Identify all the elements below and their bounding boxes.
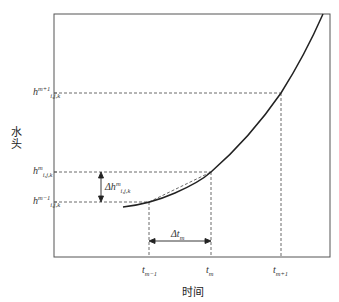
x-tick-t-m: tm	[206, 265, 213, 275]
x-axis-title: 时间	[182, 283, 204, 299]
secant-line	[149, 172, 211, 202]
guide-lines	[54, 93, 281, 257]
delta-h-arrow	[99, 172, 104, 202]
delta-h-label: Δhmi,j,k	[105, 182, 130, 192]
y-tick-h-m: hmi,j,k	[33, 166, 52, 176]
plot-frame	[54, 14, 330, 257]
x-tick-t-m-plus-1: tm+1	[273, 265, 288, 275]
head-curve	[123, 14, 323, 207]
x-tick-t-m-minus-1: tm−1	[142, 265, 157, 275]
y-tick-h-m-minus-1: hm−1i,j,k	[33, 196, 60, 206]
delta-t-label: Δtm	[171, 229, 184, 239]
head-time-diagram	[0, 0, 339, 302]
y-axis-title: 水头	[7, 126, 23, 150]
y-tick-h-m-plus-1: hm+1i,j,k	[33, 87, 60, 97]
